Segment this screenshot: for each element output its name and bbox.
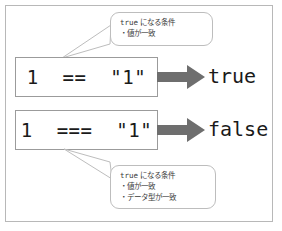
callout-top-heading: true になる条件 xyxy=(120,17,205,28)
callout-top-bullet-1: ・値が一致 xyxy=(120,28,205,39)
callout-bottom-bullet-2: ・データ型が一致 xyxy=(120,192,208,203)
result-strict-equality: false xyxy=(208,119,268,139)
callout-top-keyword: true xyxy=(120,18,138,27)
expression-loose-equality: 1 == "1" xyxy=(27,68,146,87)
callout-top-heading-rest: になる条件 xyxy=(138,18,175,27)
callout-bottom-heading-rest: になる条件 xyxy=(138,171,175,180)
result-loose-equality: true xyxy=(208,66,256,86)
diagram-canvas: true になる条件 ・値が一致 1 == "1" true 1 === "1"… xyxy=(0,0,282,231)
callout-equality-strict: true になる条件 ・値が一致 ・データ型が一致 xyxy=(110,165,216,209)
code-box-loose-equality: 1 == "1" xyxy=(15,57,158,97)
arrow-right-icon xyxy=(157,64,205,90)
arrow-right-icon xyxy=(157,117,205,143)
code-box-strict-equality: 1 === "1" xyxy=(15,110,158,150)
callout-bottom-bullet-1: ・値が一致 xyxy=(120,181,208,192)
callout-equality-loose: true になる条件 ・値が一致 xyxy=(110,12,213,46)
callout-bottom-heading: true になる条件 xyxy=(120,170,208,181)
expression-strict-equality: 1 === "1" xyxy=(21,121,152,140)
callout-bottom-keyword: true xyxy=(120,171,138,180)
